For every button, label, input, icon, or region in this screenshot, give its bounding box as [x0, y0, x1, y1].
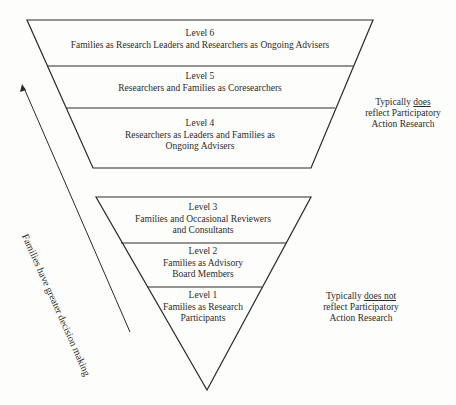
level-1-title: Level 1: [153, 290, 253, 302]
does-not-emphasis: does not: [364, 291, 396, 301]
level-4-desc-1: Researchers as Leaders and Families as: [100, 130, 300, 142]
level-4-desc-2: Ongoing Advisers: [100, 141, 300, 153]
level-5-label: Level 5 Researchers and Families as Core…: [80, 71, 320, 94]
level-2-desc-2: Board Members: [143, 269, 263, 281]
level-1-desc-1: Families as Research: [153, 302, 253, 314]
level-5-desc: Researchers and Families as Coresearcher…: [80, 83, 320, 95]
level-3-title: Level 3: [128, 202, 278, 214]
level-3-label: Level 3 Families and Occasional Reviewer…: [128, 202, 278, 237]
level-6-label: Level 6 Families as Research Leaders and…: [60, 28, 340, 51]
does-emphasis: does: [413, 97, 430, 107]
level-4-title: Level 4: [100, 118, 300, 130]
level-2-label: Level 2 Families as Advisory Board Membe…: [143, 246, 263, 281]
level-4-label: Level 4 Researchers as Leaders and Famil…: [100, 118, 300, 153]
level-6-desc: Families as Research Leaders and Researc…: [60, 40, 340, 52]
level-1-desc-2: Participants: [153, 313, 253, 325]
does-not-reflect-note: Typically does not reflect Participatory…: [316, 291, 406, 324]
level-3-desc-1: Families and Occasional Reviewers: [128, 214, 278, 226]
does-reflect-note: Typically does reflect Participatory Act…: [358, 97, 448, 130]
level-5-title: Level 5: [80, 71, 320, 83]
level-1-label: Level 1 Families as Research Participant…: [153, 290, 253, 325]
level-2-desc-1: Families as Advisory: [143, 258, 263, 270]
level-6-title: Level 6: [60, 28, 340, 40]
level-2-title: Level 2: [143, 246, 263, 258]
level-3-desc-2: and Consultants: [128, 225, 278, 237]
